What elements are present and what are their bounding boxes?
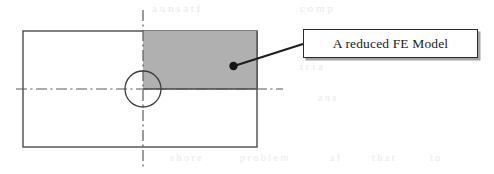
figure-canvas: a u n s a t f c o m p t r i a a n s s h … bbox=[0, 0, 494, 174]
callout-box[interactable]: A reduced FE Model bbox=[303, 29, 478, 58]
leader-endpoint-dot bbox=[229, 62, 237, 70]
technical-drawing bbox=[0, 0, 494, 174]
center-hole-circle bbox=[125, 71, 161, 107]
callout-label: A reduced FE Model bbox=[333, 37, 449, 51]
shaded-quadrant bbox=[143, 31, 257, 89]
